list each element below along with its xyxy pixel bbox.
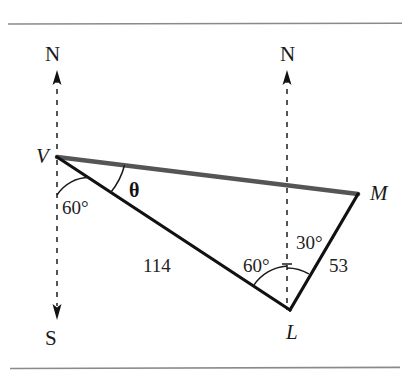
south-arrow-left-icon — [53, 304, 62, 320]
angle-arc-v-60 — [57, 177, 90, 195]
angle-arc-l-30 — [287, 268, 309, 274]
compass-label-south-left: S — [45, 328, 57, 349]
diagram-svg — [0, 0, 414, 381]
angle-label-theta: θ — [129, 180, 139, 200]
angle-label-l-30: 30° — [296, 233, 323, 252]
bottom-rule — [10, 367, 400, 368]
vertex-label-l: L — [286, 322, 298, 343]
side-label-lm-53: 53 — [329, 256, 348, 275]
angle-label-l-60: 60° — [243, 256, 270, 275]
figure-canvas: N S N V L M 60° θ 60° 30° 114 53 — [0, 0, 414, 381]
angle-label-v-60: 60° — [62, 198, 89, 217]
top-rule — [8, 23, 402, 24]
vertex-label-v: V — [36, 146, 49, 167]
compass-label-north-left: N — [45, 44, 60, 65]
side-label-vl-114: 114 — [143, 256, 171, 275]
vertex-label-m: M — [370, 183, 388, 204]
compass-label-north-right: N — [280, 44, 295, 65]
angle-arc-v-theta — [110, 165, 124, 193]
